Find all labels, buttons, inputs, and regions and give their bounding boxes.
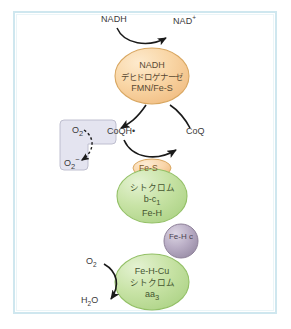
complex1-line1: NADH: [107, 60, 197, 72]
arrow-nadh-to-nadplus: [117, 28, 166, 43]
aa3-line3: aa3: [112, 289, 192, 303]
nadh-dehydrogenase-label: NADH デヒドロゲナーゼ FMN/Fe-S: [107, 60, 197, 95]
label-o2-box: O2: [72, 125, 83, 138]
label-nad-plus: NAD+: [173, 14, 196, 26]
bc1-line3: Fe-H: [112, 208, 192, 220]
label-coq-oxidized: CoQ: [186, 126, 205, 136]
aa3-line2: シトクロム: [112, 278, 192, 289]
complex1-line2: デヒドロゲナーゼ: [107, 72, 197, 83]
bc1-line2: b-c1: [112, 194, 192, 208]
electron-transport-chain-figure: NADH NAD+ NADH デヒドロゲナーゼ FMN/Fe-S O2 O2− …: [0, 0, 291, 329]
complex1-line3: FMN/Fe-S: [107, 83, 197, 95]
label-superoxide: O2−: [64, 155, 80, 171]
label-water-output: H2O: [81, 295, 98, 307]
label-nadh-input: NADH: [101, 14, 127, 24]
cytochrome-aa3-label: Fe-H-Cu シトクロム aa3: [112, 266, 192, 303]
bc1-line1: シトクロム: [112, 183, 192, 194]
arrow-coqh-to-coq: [124, 140, 176, 157]
arrow-coq-to-complex1: [170, 105, 190, 128]
aa3-line1: Fe-H-Cu: [112, 266, 192, 278]
arrow-complex1-to-coqh: [121, 105, 146, 128]
cytochrome-c-label: Fe-H c: [161, 232, 201, 242]
cytc-line2: c: [189, 232, 193, 241]
cytc-line1: Fe-H: [169, 232, 187, 241]
label-o2-input: O2: [86, 256, 97, 268]
cytochrome-bc1-label: シトクロム b-c1 Fe-H: [112, 183, 192, 220]
fe-s-badge-label: Fe-S: [139, 163, 158, 173]
label-coqh-radical: CoQH•: [107, 126, 135, 136]
